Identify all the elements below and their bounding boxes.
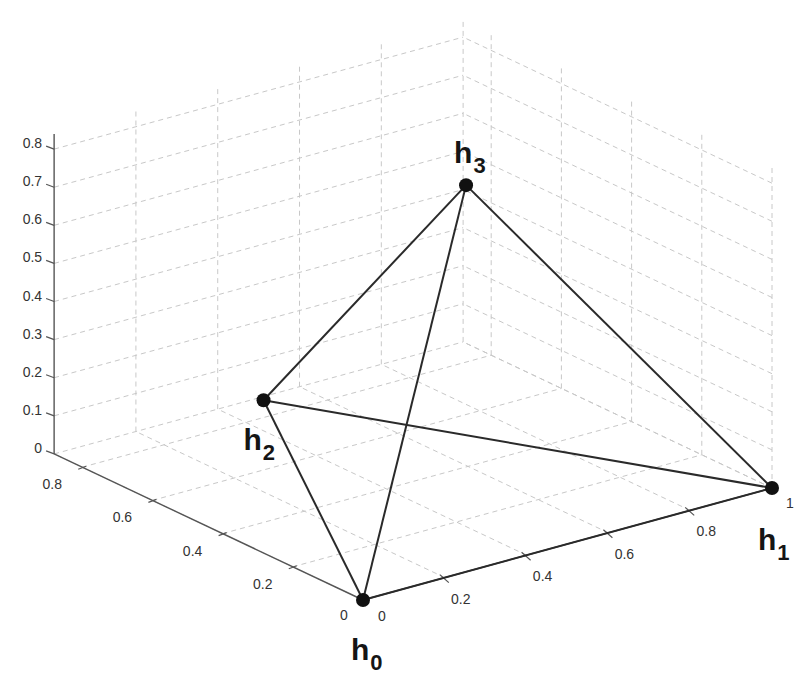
z-tick-label: 0.4 (23, 288, 43, 304)
x-tick-label: 1 (786, 495, 794, 511)
vertex-label-subscript: 0 (370, 650, 382, 675)
grid-line-x-floor (300, 387, 609, 533)
vertex-h2 (257, 393, 271, 407)
grid-line-z-back (54, 113, 463, 225)
vertex-label-h0: h0 (351, 633, 383, 675)
grid-line-x-floor (463, 342, 772, 488)
vertex-label-subscript: 2 (263, 440, 275, 465)
z-tick-label: 0.7 (23, 173, 43, 189)
x-tick-label: 0.6 (615, 546, 635, 562)
y-tick-label: 0 (340, 607, 348, 623)
grid-line-z-back (54, 266, 463, 378)
z-tick (46, 451, 54, 454)
tick-labels: 00.10.20.30.40.50.60.70.800.20.40.60.800… (23, 135, 794, 624)
x-tick-label: 0.4 (533, 568, 553, 584)
y-tick-label: 0.4 (183, 543, 203, 559)
vertex-labels: h0h1h2h3 (244, 136, 790, 675)
grid-line-y-floor (82, 355, 491, 467)
z-tick (46, 146, 54, 149)
vertex-label-h1: h1 (758, 523, 790, 565)
grid-line-z-back (54, 37, 463, 149)
plot-canvas: 00.10.20.30.40.50.60.70.800.20.40.60.800… (0, 0, 809, 692)
edge-h0-h3 (363, 185, 466, 600)
vertex-label-subscript: 1 (777, 540, 789, 565)
grid-line-z-right (463, 266, 772, 412)
z-tick (46, 375, 54, 378)
grid-line-z-right (463, 37, 772, 183)
z-tick-label: 0.2 (23, 364, 43, 380)
vertex-h0 (356, 593, 370, 607)
z-tick (46, 299, 54, 302)
grid-lines (54, 22, 772, 600)
grid-line-z-right (463, 75, 772, 221)
z-tick-label: 0.8 (23, 135, 43, 151)
tetrahedron-3d-plot: 00.10.20.30.40.50.60.70.800.20.40.60.800… (0, 0, 809, 692)
grid-line-z-right (463, 304, 772, 450)
grid-line-z-right (463, 151, 772, 297)
grid-line-z-back (54, 151, 463, 263)
z-tick-label: 0.1 (23, 402, 43, 418)
x-tick-label: 0.2 (451, 591, 471, 607)
z-tick-label: 0.3 (23, 326, 43, 342)
vertex-label-h2: h2 (244, 423, 276, 465)
x-tick-label: 0 (378, 608, 386, 624)
y-tick-label: 0.8 (42, 476, 62, 492)
vertex-label-letter: h (244, 423, 262, 456)
y-tick-label: 0.2 (253, 576, 273, 592)
vertex-h1 (765, 481, 779, 495)
y-axis-line (54, 454, 363, 600)
z-tick-label: 0.6 (23, 211, 43, 227)
z-tick-label: 0 (34, 440, 42, 456)
grid-line-x-floor (381, 364, 690, 510)
x-tick-label: 0.8 (696, 523, 716, 539)
axes (46, 134, 772, 600)
grid-line-z-right (463, 113, 772, 259)
z-tick (46, 222, 54, 225)
z-tick-label: 0.5 (23, 249, 43, 265)
grid-line-z-back (54, 190, 463, 302)
y-tick-label: 0.6 (113, 509, 133, 525)
vertex-label-h3: h3 (454, 136, 486, 178)
vertex-label-letter: h (758, 523, 776, 556)
vertex-label-subscript: 3 (473, 153, 485, 178)
grid-line-z-right (463, 190, 772, 336)
vertex-h3 (459, 178, 473, 192)
vertex-label-letter: h (454, 136, 472, 169)
edge-h0-h1 (363, 488, 772, 600)
grid-line-y-floor (293, 455, 702, 567)
z-tick (46, 260, 54, 263)
edge-h2-h3 (264, 185, 467, 400)
z-tick (46, 337, 54, 340)
grid-line-z-back (54, 228, 463, 340)
grid-line-z-right (463, 228, 772, 374)
grid-line-y-floor (152, 388, 561, 500)
edge-h0-h2 (264, 400, 363, 600)
vertex-label-letter: h (351, 633, 369, 666)
z-tick (46, 184, 54, 187)
z-tick (46, 413, 54, 416)
grid-line-y-floor (223, 422, 632, 534)
grid-line-x-floor (218, 409, 527, 555)
grid-line-z-back (54, 75, 463, 187)
